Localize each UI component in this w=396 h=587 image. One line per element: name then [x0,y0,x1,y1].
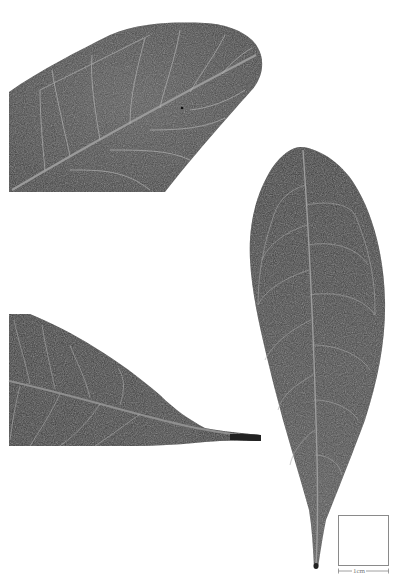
leaf-base-panel [9,314,261,446]
whole-leaf-panel [250,147,385,569]
leaf-illustrations [0,0,396,587]
scale-reference [338,516,389,574]
specimen-plate: 1cm [0,0,396,587]
leaf-apex-panel [9,23,262,192]
scale-bar-label: 1cm [352,567,366,575]
